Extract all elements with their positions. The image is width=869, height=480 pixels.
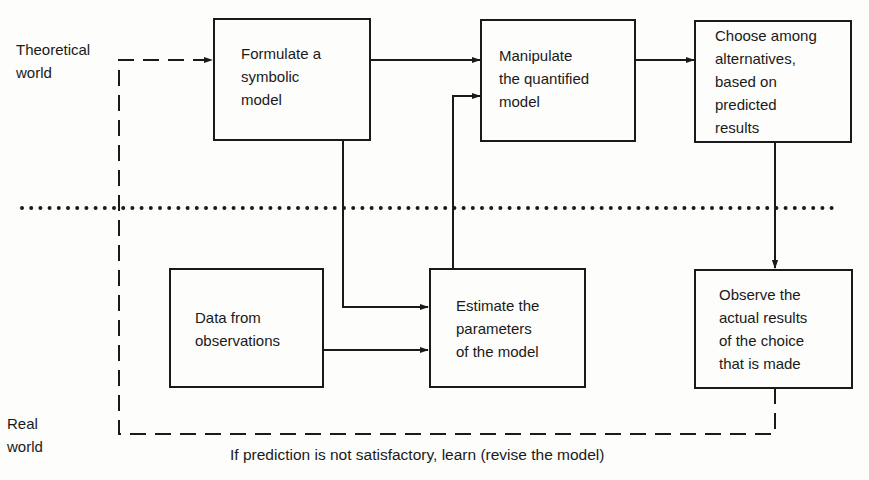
box-text-line: parameters [456,317,539,340]
box-text-line: based on [715,70,817,93]
real-world-label: Real world [7,412,43,458]
box-text-line: symbolic [241,65,321,88]
box-text-line: of the model [456,340,539,363]
box-text-line: Estimate the [456,294,539,317]
box-text-line: alternatives, [715,47,817,70]
box-text-line: results [715,116,817,139]
data-from-observations-box: Data from observations [169,268,324,388]
label-line: world [16,61,90,84]
feedback-caption: If prediction is not satisfactory, learn… [230,446,604,464]
formulate-model-box: Formulate a symbolic model [213,18,371,141]
box-text-line: Formulate a [241,42,321,65]
manipulate-model-box: Manipulate the quantified model [480,19,636,142]
arrow-estimate-to-manipulate [453,96,480,268]
box-text-line: Data from [195,306,280,329]
theoretical-world-label: Theoretical world [16,38,90,84]
label-line: Theoretical [16,38,90,61]
observe-results-box: Observe the actual results of the choice… [694,269,853,389]
box-text-line: the quantified [499,67,589,90]
box-text-line: Observe the [719,283,807,306]
box-text-line: model [499,90,589,113]
label-line: world [7,435,43,458]
box-text-line: observations [195,329,280,352]
arrow-formulate-to-estimate [343,140,428,307]
choose-alternatives-box: Choose among alternatives, based on pred… [694,20,852,143]
box-text-line: Manipulate [499,44,589,67]
box-text-line: of the choice [719,329,807,352]
estimate-parameters-box: Estimate the parameters of the model [429,268,586,388]
box-text-line: predicted [715,93,817,116]
box-text-line: Choose among [715,24,817,47]
box-text-line: model [241,88,321,111]
label-line: Real [7,412,43,435]
box-text-line: that is made [719,352,807,375]
box-text-line: actual results [719,306,807,329]
